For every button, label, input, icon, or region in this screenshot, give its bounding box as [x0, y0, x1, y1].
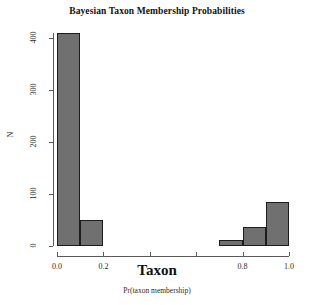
y-axis-title: N — [6, 122, 15, 148]
y-axis-tick — [49, 90, 53, 91]
y-axis-tick-label: 300 — [29, 77, 38, 103]
y-axis-tick — [49, 246, 53, 247]
y-axis-tick — [49, 194, 53, 195]
x-axis-tick — [150, 252, 151, 256]
y-axis-tick — [49, 142, 53, 143]
plot-area — [57, 33, 289, 246]
histogram-bar — [266, 202, 289, 246]
histogram-bar — [80, 220, 103, 246]
histogram-bar — [219, 240, 242, 246]
x-axis-tick — [196, 252, 197, 256]
y-axis-tick-label: 100 — [29, 181, 38, 207]
chart-title: Bayesian Taxon Membership Probabilities — [0, 6, 314, 16]
x-axis-line — [57, 256, 289, 257]
histogram-bar — [243, 227, 266, 246]
y-axis-tick-label: 400 — [29, 25, 38, 51]
histogram-chart: Bayesian Taxon Membership Probabilities … — [0, 0, 314, 305]
y-axis-tick-label: 0 — [29, 233, 38, 259]
histogram-bar — [57, 33, 80, 246]
x-axis-title: Taxon — [0, 262, 314, 279]
x-axis-tick — [289, 252, 290, 256]
y-axis-line — [53, 33, 54, 246]
y-axis-tick — [49, 38, 53, 39]
x-axis-tick — [57, 252, 58, 256]
x-axis-tick — [103, 252, 104, 256]
x-axis-tick — [243, 252, 244, 256]
bars-layer — [57, 33, 289, 246]
y-axis-tick-label: 200 — [29, 129, 38, 155]
x-axis-sublabel: Pr(taxon membership) — [0, 286, 314, 295]
